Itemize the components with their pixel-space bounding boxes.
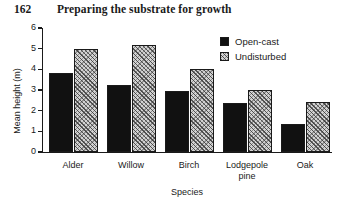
y-tick-label-5: 5	[22, 44, 36, 53]
bar-birch-open-cast	[165, 91, 189, 152]
bar-birch-undisturbed	[190, 69, 214, 152]
y-tick-label-3: 3	[22, 85, 36, 94]
bar-oak-undisturbed	[306, 102, 330, 152]
bar-chart-figure: Mean height (m) 0123456 AlderWillowBirch…	[0, 20, 347, 217]
legend-swatch-undisturbed	[220, 52, 229, 61]
y-axis-label: Mean height (m)	[12, 53, 22, 149]
bar-willow-undisturbed	[132, 45, 156, 152]
legend-label-undisturbed: Undisturbed	[235, 50, 286, 63]
bar-willow-open-cast	[107, 85, 131, 152]
y-tick-label-6: 6	[22, 23, 36, 32]
bar-group-willow	[107, 28, 156, 152]
bar-lodgepole-pine-open-cast	[223, 103, 247, 152]
legend-swatch-open-cast	[220, 37, 229, 46]
plot-area: 0123456	[42, 28, 332, 152]
bar-group-alder	[49, 28, 98, 152]
x-axis-label: Species	[42, 187, 332, 197]
bar-oak-open-cast	[281, 124, 305, 152]
bar-series-container	[42, 28, 332, 152]
bar-alder-open-cast	[49, 73, 73, 152]
legend-label-open-cast: Open-cast	[235, 35, 279, 48]
running-title: Preparing the substrate for growth	[57, 3, 232, 15]
bar-group-oak	[281, 28, 330, 152]
page-number: 162	[14, 3, 31, 15]
y-tick-label-4: 4	[22, 64, 36, 73]
y-tick-label-1: 1	[22, 126, 36, 135]
bar-group-birch	[165, 28, 214, 152]
running-head: 162 Preparing the substrate for growth	[0, 3, 347, 19]
x-axis-line	[42, 152, 332, 153]
bar-lodgepole-pine-undisturbed	[248, 90, 272, 152]
y-tick-label-2: 2	[22, 106, 36, 115]
y-tick-label-0: 0	[22, 147, 36, 156]
bar-alder-undisturbed	[74, 49, 98, 152]
category-label-oak: Oak	[259, 160, 347, 171]
